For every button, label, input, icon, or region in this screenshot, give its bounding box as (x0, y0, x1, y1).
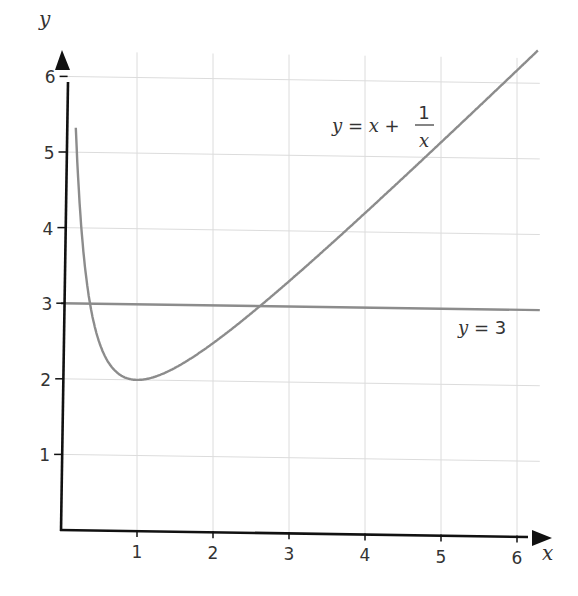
y-tick-label: 6 (45, 67, 56, 87)
y-tick-label: 4 (43, 219, 54, 239)
y-tick-label: 1 (39, 445, 50, 465)
svg-text:1: 1 (418, 102, 429, 123)
grid-line-horizontal (61, 152, 540, 159)
chart: 123456 123456 x y y = x + 1 x y = 3 (0, 0, 578, 596)
y-tick-label: 3 (41, 294, 52, 314)
svg-text:y = 3: y = 3 (457, 317, 506, 338)
x-tick-label: 4 (360, 545, 371, 565)
x-tick-label: 1 (132, 542, 143, 562)
x-tick-label: 2 (208, 543, 219, 563)
curve-label-hyperbola: y = x + 1 x (331, 102, 434, 151)
grid-lines (61, 52, 540, 536)
axes (55, 50, 552, 546)
y-tick-label: 2 (40, 370, 51, 390)
line-y-equals-3 (61, 303, 540, 310)
grid-line-horizontal (61, 228, 540, 235)
y-axis-arrow-icon (55, 50, 70, 70)
curve-label-horizontal-line: y = 3 (457, 317, 506, 338)
x-axis-line (60, 530, 528, 537)
y-axis-line (61, 82, 68, 531)
y-axis-label: y (38, 7, 51, 31)
svg-text:x: x (419, 130, 429, 151)
svg-text:y = x +: y = x + (331, 115, 400, 136)
x-tick-label: 5 (436, 547, 447, 567)
x-axis-label: x (542, 541, 553, 565)
x-tick-label: 6 (512, 548, 523, 568)
grid-line-horizontal (61, 454, 540, 461)
y-tick-label: 5 (44, 143, 55, 163)
grid-line-horizontal (61, 76, 540, 83)
x-tick-label: 3 (284, 544, 295, 564)
